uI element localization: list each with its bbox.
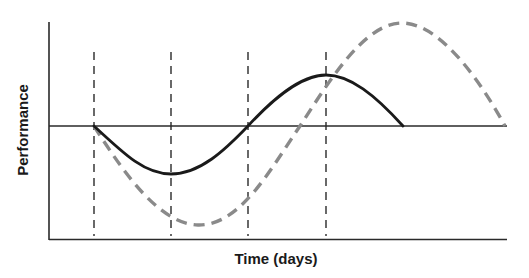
vertical-reference-lines bbox=[94, 52, 326, 236]
chart-plot-area bbox=[0, 0, 529, 278]
y-axis-label: Performance bbox=[14, 84, 31, 176]
x-axis-label: Time (days) bbox=[234, 250, 317, 267]
solid-black-curve bbox=[94, 75, 403, 174]
dashed-gray-curve bbox=[94, 23, 505, 225]
